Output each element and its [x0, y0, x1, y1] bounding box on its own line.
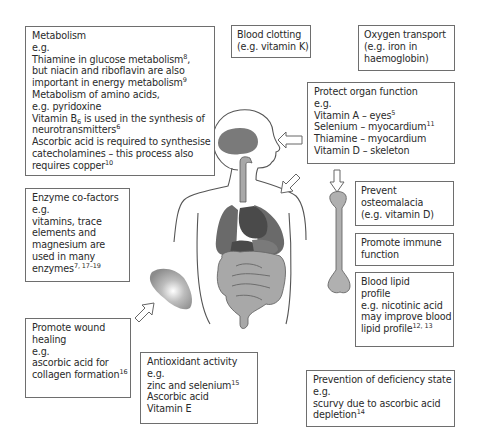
line-text: e.g. pyridoxine [32, 101, 101, 112]
prevent-osteomalacia-box: Preventosteomalacia(e.g. vitamin D) [355, 181, 454, 226]
line-text: e.g. [314, 98, 332, 109]
line-text: requires copper [32, 160, 105, 171]
box-text-line: osteomalacia [361, 197, 448, 209]
line-text: but niacin and riboflavin are also [32, 65, 185, 76]
box-text-line: e.g. [314, 98, 448, 110]
box-text-line: haemoglobin) [364, 53, 449, 65]
prevention-deficiency-box: Prevention of deficiency statee.g.scurvy… [306, 370, 455, 427]
line-text: e.g. [32, 346, 50, 357]
box-text-line: profile [361, 288, 448, 300]
line-text: e.g. nicotinic acid [361, 300, 443, 311]
line-text: e.g. [32, 204, 50, 215]
line-text: (e.g. vitamin K) [237, 41, 309, 52]
box-text-line: e.g. pyridoxine [32, 101, 208, 113]
line-text: osteomalacia [361, 197, 423, 208]
box-text-line: healing [32, 334, 124, 346]
line-text: e.g. [313, 386, 331, 397]
oxygen-transport-box: Oxygen transport(e.g. iron inhaemoglobin… [358, 25, 455, 71]
line-text: Blood clotting [237, 29, 301, 40]
box-text-line: e.g. nicotinic acid [361, 300, 448, 312]
box-text-line: Metabolism [32, 30, 208, 42]
box-text-line: Enzyme co-factors [32, 192, 123, 204]
line-text: Promote immune [361, 237, 441, 248]
line-text: magnesium are [32, 239, 105, 250]
box-text-line: (e.g. vitamin K) [237, 41, 305, 53]
protect-organ-function-box: Protect organ functione.g.Vitamin A – ey… [307, 82, 455, 164]
line-text: Vitamin A – eyes [314, 110, 391, 121]
box-text-line: magnesium are [32, 239, 123, 251]
line-text: Ascorbic acid [147, 391, 209, 402]
box-text-line: Vitamin E [147, 403, 251, 415]
line-text: vitamins, trace [32, 216, 102, 227]
line-text: profile [361, 288, 390, 299]
box-text-line: e.g. [32, 346, 124, 358]
box-text-line: Promote wound [32, 322, 124, 334]
line-text: Metabolism of amino acids, [32, 89, 160, 100]
line-text: elements and [32, 227, 96, 238]
line-text: function [361, 249, 399, 260]
box-text-line: (e.g. vitamin D) [361, 209, 448, 221]
line-text: Blood lipid [361, 276, 410, 287]
line-text: ascorbic acid for [32, 357, 109, 368]
line-text: used in many [32, 251, 95, 262]
antioxidant-activity-box: Antioxidant activitye.g.zinc and seleniu… [140, 352, 258, 424]
box-text-line: may improve blood [361, 311, 448, 323]
line-text: catecholamines – this process also [32, 148, 193, 159]
protect-organ-to-bone-arrow [330, 170, 344, 192]
wound-arrow-to-skin [135, 303, 154, 322]
box-text-line: enzymes7, 17–19 [32, 263, 123, 275]
box-text-line: Vitamin D – skeleton [314, 145, 448, 157]
reference-superscript: 10 [105, 159, 113, 167]
box-text-line: Antioxidant activity [147, 356, 251, 368]
line-text: may improve blood [361, 311, 451, 322]
box-text-line: Blood clotting [237, 29, 305, 41]
line-text: Vitamin B [32, 113, 77, 124]
line-text: collagen formation [32, 369, 119, 380]
line-text: haemoglobin) [364, 53, 428, 64]
line-text: Oxygen transport [364, 29, 446, 40]
brain [218, 128, 258, 155]
box-text-line: Thiamine – myocardium [314, 133, 448, 145]
line-text: Vitamin E [147, 403, 192, 414]
skin-wound-patch [150, 269, 192, 310]
line-text: Prevention of deficiency state [313, 374, 451, 385]
bone [328, 192, 350, 293]
box-text-line: Metabolism of amino acids, [32, 89, 208, 101]
box-text-line: e.g. [32, 204, 123, 216]
reference-superscript: 9 [183, 76, 187, 84]
box-text-line: Prevention of deficiency state [313, 374, 448, 386]
metabolism-box: Metabolisme.g.Thiamine in glucose metabo… [25, 26, 215, 176]
line-text: lipid profile [361, 323, 413, 334]
box-text-line: scurvy due to ascorbic acid [313, 398, 448, 410]
line-text: Thiamine – myocardium [314, 133, 426, 144]
box-text-line: neurotransmitters6 [32, 124, 208, 136]
blood-lipid-box: Blood lipidprofilee.g. nicotinic acidmay… [355, 272, 454, 347]
box-text-line: (e.g. iron in [364, 41, 449, 53]
line-text: Selenium – myocardium [314, 121, 426, 132]
box-text-line: but niacin and riboflavin are also [32, 65, 208, 77]
enzyme-cofactors-box: Enzyme co-factorse.g.vitamins, traceelem… [25, 188, 130, 282]
line-text: Vitamin D – skeleton [314, 145, 409, 156]
box-text-line: Prevent [361, 185, 448, 197]
line-text-continued: , [187, 54, 190, 65]
box-text-line: Oxygen transport [364, 29, 449, 41]
box-text-line: requires copper10 [32, 160, 208, 172]
box-text-line: Protect organ function [314, 86, 448, 98]
trachea [240, 157, 252, 202]
line-text: important in energy metabolism [32, 77, 183, 88]
box-text-line: lipid profile12, 13 [361, 323, 448, 335]
line-text: Ascorbic acid is required to synthesise [32, 136, 211, 147]
box-text-line: e.g. [32, 42, 208, 54]
line-text: Prevent [361, 185, 397, 196]
reference-superscript: 11 [426, 120, 434, 128]
reference-superscript: 7, 17–19 [74, 262, 101, 270]
box-text-line: depletion14 [313, 409, 448, 421]
reference-superscript: 5 [391, 109, 395, 117]
box-text-line: catecholamines – this process also [32, 148, 208, 160]
line-text: (e.g. iron in [364, 41, 417, 52]
line-text: Thiamine in glucose metabolism [32, 54, 183, 65]
box-text-line: important in energy metabolism9 [32, 77, 208, 89]
protect-organ-to-body-arrow [281, 174, 300, 193]
box-text-line: Thiamine in glucose metabolism8, [32, 54, 208, 66]
box-text-line: vitamins, trace [32, 216, 123, 228]
